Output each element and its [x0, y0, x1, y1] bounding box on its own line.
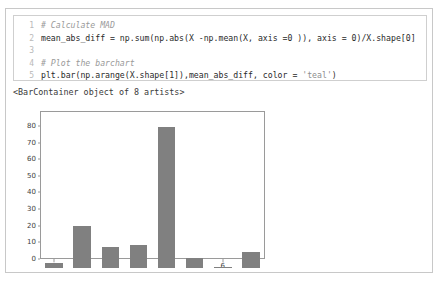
code-line: 4# Plot the barchart — [14, 57, 426, 70]
plot-axes: 01020304050607080 01234567 — [40, 111, 265, 269]
y-tick-mark — [38, 175, 41, 176]
y-tick-mark — [38, 192, 41, 193]
y-tick-label: 40 — [27, 188, 36, 196]
code-segment: plt.bar(np.arange(X.shape[1]),mean_abs_d… — [41, 70, 302, 80]
code-line: 5plt.bar(np.arange(X.shape[1]),mean_abs_… — [14, 69, 426, 81]
cell-output-text: <BarContainer object of 8 artists> — [13, 87, 184, 97]
x-tick-label: 6 — [221, 262, 225, 270]
bar — [242, 252, 259, 268]
y-tick-mark — [38, 209, 41, 210]
bar — [130, 245, 147, 268]
y-tick-label: 60 — [27, 155, 36, 163]
line-number: 5 — [14, 70, 41, 81]
bar — [186, 258, 203, 268]
code-segment: ) — [332, 70, 337, 80]
y-tick-mark — [38, 242, 41, 243]
notebook-cell: 1# Calculate MAD2mean_abs_diff = np.sum(… — [5, 8, 433, 273]
y-tick-mark — [38, 125, 41, 126]
x-tick-mark — [54, 259, 55, 262]
code-input-block[interactable]: 1# Calculate MAD2mean_abs_diff = np.sum(… — [13, 15, 427, 81]
bar — [45, 263, 62, 268]
y-tick-label: 30 — [27, 205, 36, 213]
code-line: 2mean_abs_diff = np.sum(np.abs(X -np.mea… — [14, 32, 426, 45]
bar — [158, 127, 175, 268]
bar — [73, 226, 90, 268]
y-tick-mark — [38, 259, 41, 260]
y-tick-mark — [38, 159, 41, 160]
x-tick-mark — [222, 259, 223, 262]
y-tick-label: 80 — [27, 122, 36, 130]
code-line: 3 — [14, 44, 426, 57]
code-segment: # Plot the barchart — [41, 58, 135, 68]
bar — [214, 267, 231, 268]
code-segment: mean_abs_diff = np.sum(np.abs(X -np.mean… — [41, 33, 416, 43]
bar — [102, 247, 119, 268]
y-tick-label: 50 — [27, 172, 36, 180]
y-tick-label: 70 — [27, 139, 36, 147]
bar-chart-figure: 01020304050607080 01234567 — [14, 101, 294, 269]
y-tick-mark — [38, 142, 41, 143]
code-lines: 1# Calculate MAD2mean_abs_diff = np.sum(… — [14, 16, 426, 81]
y-tick-label: 0 — [32, 255, 36, 263]
y-tick-label: 20 — [27, 222, 36, 230]
code-line: 1# Calculate MAD — [14, 19, 426, 32]
y-tick-mark — [38, 225, 41, 226]
code-segment: 'teal' — [302, 70, 332, 80]
y-tick-label: 10 — [27, 238, 36, 246]
code-segment: # Calculate MAD — [41, 20, 115, 30]
